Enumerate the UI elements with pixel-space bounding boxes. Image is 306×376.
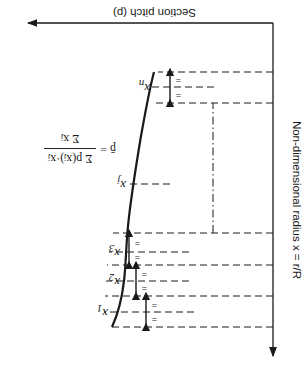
equal-mark: = [142, 270, 147, 280]
station-label-x2: x2 [109, 272, 120, 290]
equal-mark: = [135, 239, 140, 249]
equal-mark: = [176, 91, 181, 101]
station-lines [104, 72, 273, 327]
station-label-x3: x3 [109, 243, 120, 261]
formula-lhs: p̄ = [100, 141, 116, 156]
formula-fraction: Σ p(xⱼ)·xⱼ Σ xⱼ [44, 131, 96, 166]
pitch-distribution-diagram: = = = = = = = = x1 x2 x3 xj xn p̄ = Σ p(… [0, 0, 306, 376]
station-label-xn: xn [139, 78, 150, 96]
equal-mark: = [152, 301, 157, 311]
formula-denominator: Σ xⱼ [44, 131, 96, 148]
equal-mark: = [176, 76, 181, 86]
interval-markers [129, 72, 170, 327]
equal-mark: = [152, 315, 157, 325]
equal-mark: = [142, 284, 147, 294]
pitch-axis-label: Section pitch (p) [113, 7, 196, 19]
mean-pitch-formula: p̄ = Σ p(xⱼ)·xⱼ Σ xⱼ [44, 131, 116, 166]
formula-numerator: Σ p(xⱼ)·xⱼ [44, 148, 96, 166]
station-label-xj: xj [117, 175, 126, 193]
station-label-x1: x1 [97, 303, 108, 321]
equal-mark: = [135, 253, 140, 263]
radius-axis-label: Non-dimensional radius x = r/R [291, 121, 303, 279]
